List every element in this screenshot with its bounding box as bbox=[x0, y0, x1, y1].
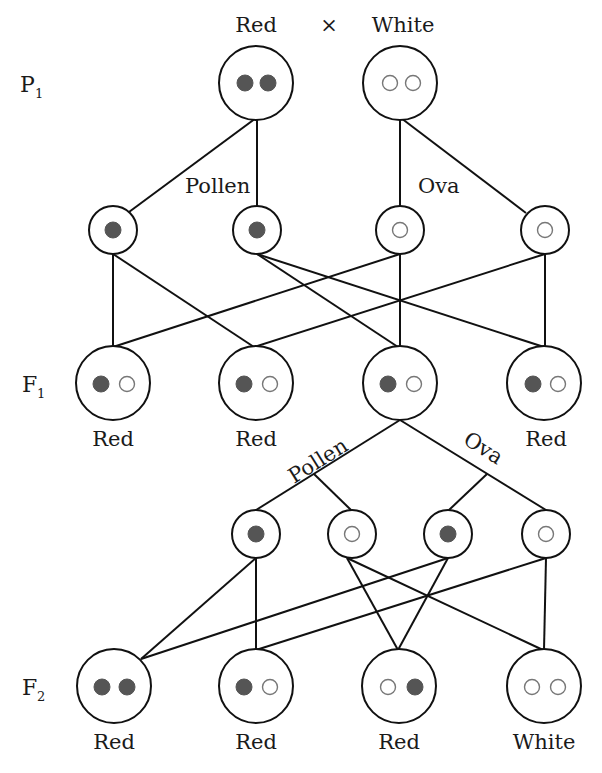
cross-header: Red × White bbox=[235, 13, 434, 37]
f1-gamete-pollen-1 bbox=[232, 510, 280, 558]
f1-phenotype-label-4: Red bbox=[525, 427, 567, 451]
red-allele-dot bbox=[105, 222, 121, 238]
cross-symbol: × bbox=[320, 13, 338, 37]
f1-offspring-1 bbox=[76, 346, 150, 420]
red-allele-dot bbox=[525, 376, 541, 392]
p1-gamete-ova-2 bbox=[521, 206, 569, 254]
cell-circle bbox=[219, 346, 293, 420]
white-allele-dot bbox=[551, 377, 566, 392]
cell-circle bbox=[507, 346, 581, 420]
f1-phenotype-label-2: Red bbox=[235, 427, 277, 451]
white-allele-dot bbox=[120, 377, 135, 392]
f1-offspring-4 bbox=[507, 346, 581, 420]
red-allele-dot bbox=[407, 679, 423, 695]
white-allele-dot bbox=[539, 527, 554, 542]
f2-phenotype-label-3: Red bbox=[378, 730, 420, 754]
white-allele-dot bbox=[383, 76, 398, 91]
generation-letter: F bbox=[22, 372, 37, 397]
red-allele-dot bbox=[236, 376, 252, 392]
red-allele-dot bbox=[440, 526, 456, 542]
cell-circle bbox=[219, 46, 293, 120]
f2-offspring-3 bbox=[362, 649, 436, 723]
cell-circle bbox=[219, 649, 293, 723]
pollen-label-p1: Pollen bbox=[185, 174, 250, 198]
f2-phenotype-label-4: White bbox=[513, 730, 576, 754]
f2-offspring-4 bbox=[507, 649, 581, 723]
generation-subscript: 1 bbox=[35, 86, 43, 101]
generation-label-p1: P 1 bbox=[20, 72, 43, 101]
f1-offspring-3 bbox=[363, 346, 437, 420]
f2-offspring-1 bbox=[77, 649, 151, 723]
generation-letter: F bbox=[22, 675, 37, 700]
f1-gamete-ova-1 bbox=[424, 510, 472, 558]
p1-gamete-pollen-1 bbox=[89, 206, 137, 254]
edge bbox=[113, 254, 400, 347]
f1-gamete-ova-2 bbox=[522, 510, 570, 558]
red-allele-dot bbox=[380, 376, 396, 392]
generation-label-f2: F 2 bbox=[22, 675, 45, 704]
generation-letter: P bbox=[20, 72, 35, 97]
red-allele-dot bbox=[260, 75, 276, 91]
cell-circle bbox=[77, 649, 151, 723]
cell-circle bbox=[363, 46, 437, 120]
generation-subscript: 1 bbox=[37, 386, 45, 401]
ova-label-f1: Ova bbox=[459, 427, 507, 469]
ova-label-p1: Ova bbox=[418, 174, 460, 198]
red-allele-dot bbox=[93, 376, 109, 392]
p1-to-gamete-edges bbox=[129, 118, 526, 213]
generation-label-f1: F 1 bbox=[22, 372, 45, 401]
p1-gamete-ova-1 bbox=[376, 206, 424, 254]
parent-white-label: White bbox=[372, 13, 435, 37]
edge bbox=[401, 118, 526, 213]
cell-circle bbox=[363, 346, 437, 420]
f2-phenotype-label-1: Red bbox=[93, 730, 135, 754]
pollen-label-f1: Pollen bbox=[284, 433, 352, 488]
cell-circle bbox=[507, 649, 581, 723]
red-allele-dot bbox=[94, 679, 110, 695]
red-allele-dot bbox=[248, 526, 264, 542]
p1-parent-white bbox=[363, 46, 437, 120]
p1-parent-red bbox=[219, 46, 293, 120]
f2-phenotype-label-2: Red bbox=[235, 730, 277, 754]
gamete-to-f2-edges bbox=[141, 558, 546, 659]
parent-red-label: Red bbox=[235, 13, 277, 37]
white-allele-dot bbox=[263, 680, 278, 695]
f1-gamete-pollen-2 bbox=[328, 510, 376, 558]
edge bbox=[449, 474, 487, 510]
edge bbox=[256, 558, 546, 650]
gamete-to-f1-edges bbox=[113, 254, 545, 347]
red-allele-dot bbox=[119, 679, 135, 695]
red-allele-dot bbox=[249, 222, 265, 238]
cell-circle bbox=[362, 649, 436, 723]
white-allele-dot bbox=[538, 223, 553, 238]
edge bbox=[347, 558, 543, 650]
edge bbox=[347, 558, 398, 650]
white-allele-dot bbox=[345, 527, 360, 542]
edge bbox=[113, 254, 254, 347]
red-allele-dot bbox=[236, 679, 252, 695]
white-allele-dot bbox=[551, 680, 566, 695]
generation-subscript: 2 bbox=[37, 689, 45, 704]
white-allele-dot bbox=[393, 223, 408, 238]
edge bbox=[314, 474, 351, 510]
white-allele-dot bbox=[381, 680, 396, 695]
edge bbox=[257, 254, 398, 347]
white-allele-dot bbox=[525, 680, 540, 695]
p1-gamete-pollen-2 bbox=[233, 206, 281, 254]
red-allele-dot bbox=[237, 75, 253, 91]
f1-phenotype-label-1: Red bbox=[92, 427, 134, 451]
white-allele-dot bbox=[407, 377, 422, 392]
white-allele-dot bbox=[263, 377, 278, 392]
f1-offspring-2 bbox=[219, 346, 293, 420]
cell-circle bbox=[76, 346, 150, 420]
edge bbox=[141, 558, 256, 659]
edge bbox=[544, 558, 546, 650]
f2-offspring-2 bbox=[219, 649, 293, 723]
genetic-cross-diagram: Red × White P 1 F 1 F 2 Pollen Ova bbox=[0, 0, 602, 773]
white-allele-dot bbox=[406, 76, 421, 91]
